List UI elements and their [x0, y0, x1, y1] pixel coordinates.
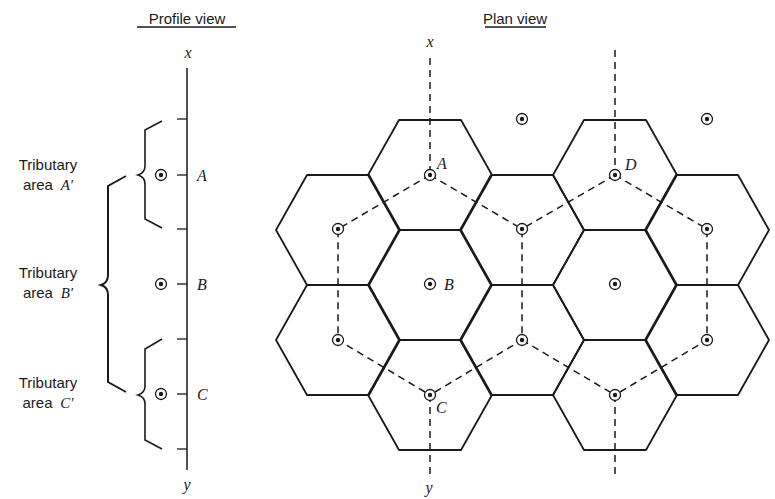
plan-view-title: Plan view: [483, 10, 547, 27]
profile-well-b-icon: [156, 279, 167, 290]
plan-axis-x-label: x: [425, 33, 433, 50]
svg-text:Tributary: Tributary: [19, 264, 78, 281]
profile-view-title: Profile view: [149, 10, 226, 27]
brace-b-icon: [101, 176, 126, 392]
plan-point-c-label: C: [436, 399, 447, 416]
svg-text:area B′: area B′: [23, 284, 74, 301]
profile-axis-x-label: x: [183, 44, 191, 61]
tributary-label-a: Tributary area A′: [19, 156, 78, 193]
profile-point-ticks: [177, 175, 187, 394]
profile-well-c-icon: [156, 389, 167, 400]
well-left-top-icon: [333, 224, 344, 235]
well-mid-bottom-icon: [517, 335, 528, 346]
plan-point-d-label: D: [624, 156, 637, 173]
well-mid-top-icon: [517, 224, 528, 235]
profile-view: Profile view x y A B C: [19, 10, 236, 494]
well-right-bottom-icon: [702, 335, 713, 346]
well-b-icon: [425, 279, 436, 290]
profile-point-b-label: B: [197, 276, 207, 293]
well-extra-top-mid-icon: [517, 114, 528, 125]
profile-point-a-label: A: [196, 167, 207, 184]
tributary-label-c: Tributary area C′: [19, 374, 78, 411]
well-d-icon: [610, 170, 621, 181]
well-left-bottom-icon: [333, 335, 344, 346]
svg-text:area C′: area C′: [22, 394, 74, 411]
plan-point-a-label: A: [436, 155, 447, 172]
well-f-icon: [610, 390, 621, 401]
plan-view: Plan view x y: [276, 10, 769, 497]
well-right-top-icon: [702, 224, 713, 235]
tributary-label-b: Tributary area B′: [19, 264, 78, 301]
well-a-icon: [425, 170, 436, 181]
profile-well-a-icon: [156, 170, 167, 181]
profile-axis-y-label: y: [181, 476, 191, 494]
well-e-icon: [610, 279, 621, 290]
svg-text:area A′: area A′: [23, 176, 74, 193]
svg-text:Tributary: Tributary: [19, 374, 78, 391]
svg-text:Tributary: Tributary: [19, 156, 78, 173]
well-extra-top-right-icon: [702, 114, 713, 125]
plan-axis-y-label: y: [423, 479, 433, 497]
well-c-icon: [425, 390, 436, 401]
profile-point-c-label: C: [197, 386, 208, 403]
tributary-area-diagram: Profile view x y A B C: [0, 0, 775, 499]
plan-point-b-label: B: [444, 276, 454, 293]
